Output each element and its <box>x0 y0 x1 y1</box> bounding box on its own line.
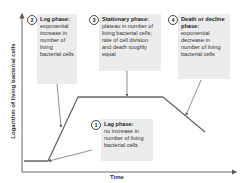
pointer-log <box>57 84 61 127</box>
phase-description: plateau in number of living bacterial ce… <box>102 23 158 58</box>
phase-title: Death or decline phase: <box>181 16 227 30</box>
phase-number-badge: 4 <box>168 15 178 25</box>
phase-number-badge: 3 <box>89 15 99 25</box>
phase-title: Lag phase: <box>104 121 150 128</box>
phase-number-badge: 1 <box>91 120 101 130</box>
pointer-death <box>186 80 201 115</box>
phase-number-badge: 2 <box>27 15 37 25</box>
phase-box-lag: 1 Lag phase: no increase in number of li… <box>101 119 153 161</box>
y-axis-label: Logarithm of living bacterial cells <box>10 26 16 156</box>
phase-description: exponential decrease in number of living… <box>181 30 227 58</box>
phase-box-log: 2 Log phase: exponential increase in num… <box>37 14 77 84</box>
pointer-lag <box>49 150 92 161</box>
phase-title: Log phase: <box>40 16 74 23</box>
phase-description: no increase in number of living bacteria… <box>104 128 150 149</box>
phase-box-stationary: 3 Stationary phase: plateau in number of… <box>99 14 161 71</box>
phase-title: Stationary phase: <box>102 16 158 23</box>
phase-box-death: 4 Death or decline phase: exponential de… <box>178 14 230 79</box>
phase-description: exponential increase in number of living… <box>40 23 74 58</box>
x-axis-label: Time <box>110 174 124 180</box>
